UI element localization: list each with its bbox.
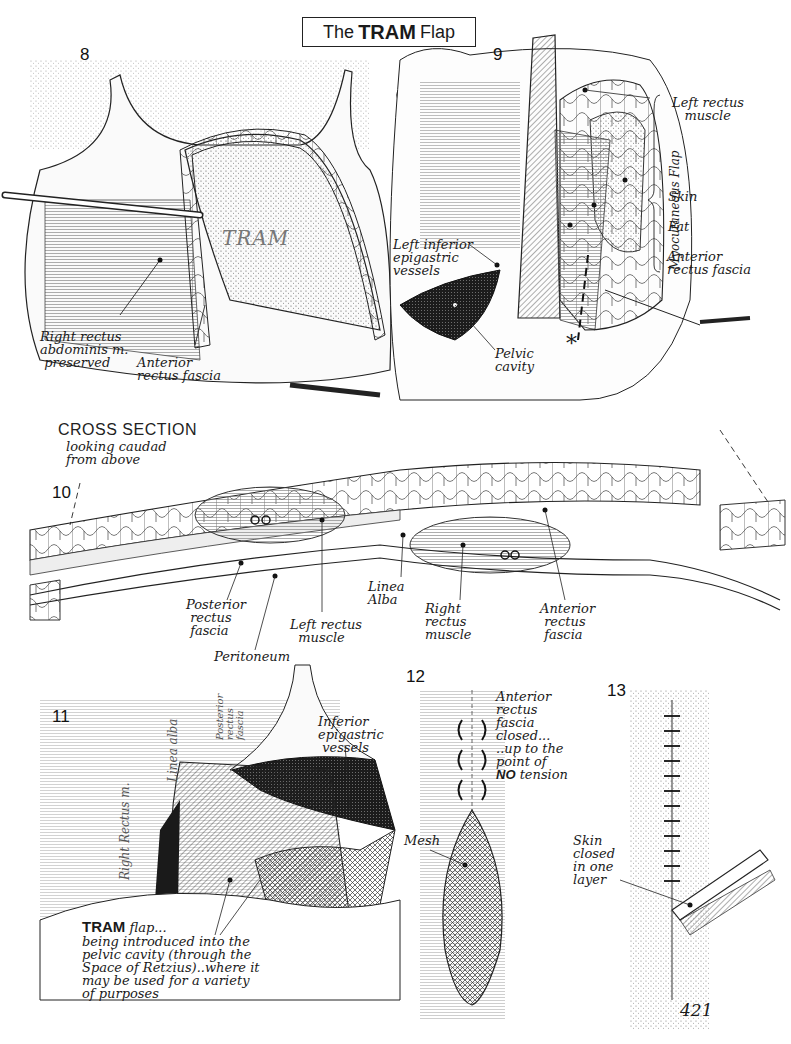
figure-10-number: 10 [52,483,71,503]
fig8-label-anterior-fascia: Anterior rectus fascia [137,356,221,382]
fig12-label-mesh: Mesh [404,834,440,847]
fig10-label-linea-alba: Linea Alba [368,580,405,606]
fig10-label-posterior-fascia: Posterior rectus fascia [186,598,246,637]
figure-11-number: 11 [52,707,70,727]
fig13-label-skin-closed: Skin closed in one layer [573,834,615,886]
fig11-vertical-linea: Linea alba [166,719,180,782]
fig12-no: NO [496,767,516,782]
figure-13-illustration [620,690,775,1030]
atlas-page: The TRAM Flap 8 9 10 11 12 13 TRAM Right… [0,0,791,1044]
title-suffix: Flap [420,22,455,43]
figure-12-number: 12 [406,667,425,687]
page-title: The TRAM Flap [302,17,476,47]
fig10-heading: CROSS SECTION [58,421,197,439]
figure-12-illustration [420,690,505,1020]
fig8-label-right-rectus: Right rectus abdominis m. preserved [40,330,129,369]
fig11-caption-rest: flap... [125,920,166,935]
figure-8-number: 8 [80,45,89,65]
page-number: 421 [680,1000,712,1020]
fig11-vertical-rectus: Right Rectus m. [118,783,132,881]
fig10-label-anterior-fascia: Anterior rectus fascia [540,602,595,641]
fig10-label-right-rectus: Right rectus muscle [425,602,472,641]
fig11-vertical-posterior: Posterior rectus fascia [215,694,245,740]
fig11-caption-body: being introduced into the pelvic cavity … [82,935,260,1000]
fig12-tension: tension [516,767,568,782]
fig8-flap-text: TRAM [222,232,289,245]
fig9-label-anterior-fascia: Anterior rectus fascia [667,250,751,276]
fig9-label-skin: Skin [668,190,697,203]
figure-9-number: 9 [493,45,502,65]
fig11-caption-bold: TRAM [82,918,125,935]
fig10-subheading: looking caudad from above [66,440,166,466]
fig10-label-peritoneum: Peritoneum [214,650,290,663]
fig9-label-left-rectus: Left rectus muscle [672,96,744,122]
fig9-label-left-inferior-epigastric: Left inferior epigastric vessels [393,238,473,277]
fig9-label-fat: Fat [668,220,689,233]
fig11-caption: TRAM flap... [82,920,167,934]
fig9-label-pelvic-cavity: Pelvic cavity [495,347,534,373]
fig9-asterisk: * [566,337,577,350]
title-prefix: The [323,22,354,43]
fig12-label-fascia-closed: Anterior rectus fascia closed... ..up to… [496,690,564,768]
figure-13-number: 13 [607,681,626,701]
fig12-label-no-tension: NO tension [496,768,568,781]
fig11-label-inferior-epigastric: Inferior epigastric vessels [318,715,384,754]
title-bold: TRAM [358,21,416,44]
fig10-label-left-rectus: Left rectus muscle [290,618,362,644]
